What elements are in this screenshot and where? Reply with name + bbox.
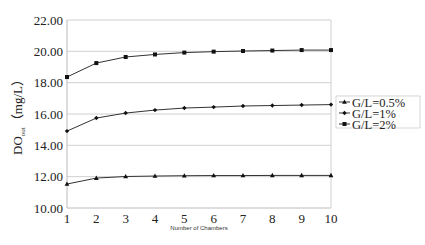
x-tick-label: 5 — [181, 211, 188, 226]
legend-label: G/L=2% — [352, 118, 396, 132]
series-g-l-2- — [65, 48, 333, 79]
y-tick-labels: 10.0012.0014.0016.0018.0020.0022.00 — [34, 13, 63, 216]
y-tick-label: 18.00 — [34, 75, 63, 90]
data-point — [182, 106, 186, 110]
x-tick-label: 7 — [240, 211, 247, 226]
gridlines — [67, 20, 331, 177]
x-tick-label: 8 — [269, 211, 276, 226]
y-tick-label: 16.00 — [34, 107, 63, 122]
data-point — [329, 102, 333, 106]
x-tick-label: 2 — [93, 211, 100, 226]
data-point — [270, 49, 274, 53]
data-point — [299, 103, 303, 107]
y-axis-label: DOout（mg/L） — [10, 73, 27, 155]
x-tick-label: 10 — [325, 211, 338, 226]
y-tick-label: 10.00 — [34, 201, 63, 216]
series-group — [65, 48, 334, 186]
data-point — [329, 48, 333, 52]
series-g-l-0-5- — [65, 173, 334, 186]
legend: G/L=0.5%G/L=1%G/L=2% — [336, 96, 420, 132]
series-line — [67, 50, 331, 77]
x-tick-label: 6 — [210, 211, 217, 226]
y-tick-label: 12.00 — [34, 169, 63, 184]
data-point — [182, 51, 186, 55]
data-point — [153, 108, 157, 112]
data-point — [123, 111, 127, 115]
data-point — [300, 48, 304, 52]
x-tick-label: 9 — [298, 211, 305, 226]
legend-marker — [343, 122, 347, 126]
x-tick-label: 3 — [122, 211, 129, 226]
y-tick-label: 14.00 — [34, 138, 63, 153]
data-point — [65, 129, 69, 133]
data-point — [94, 116, 98, 120]
x-tick-label: 4 — [152, 211, 159, 226]
x-tick-label: 1 — [64, 211, 71, 226]
data-point — [94, 61, 98, 65]
data-point — [212, 50, 216, 54]
data-point — [153, 52, 157, 56]
data-point — [241, 104, 245, 108]
data-point — [211, 105, 215, 109]
x-tick-labels: 12345678910 — [64, 211, 338, 226]
series-line — [67, 105, 331, 131]
data-point — [65, 75, 69, 79]
chart: 10.0012.0014.0016.0018.0020.0022.00 1234… — [0, 0, 425, 245]
data-point — [270, 103, 274, 107]
data-point — [241, 49, 245, 53]
x-axis-label: Number of Chambers — [170, 225, 227, 231]
y-tick-label: 20.00 — [34, 44, 63, 59]
data-point — [124, 55, 128, 59]
series-g-l-1- — [65, 102, 333, 133]
y-tick-label: 22.00 — [34, 13, 63, 28]
